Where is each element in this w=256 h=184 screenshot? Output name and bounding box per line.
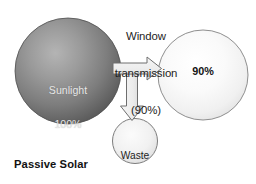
transmitted-sphere-label: 90% bbox=[168, 66, 238, 78]
figure-caption: Passive Solar bbox=[14, 158, 134, 170]
waste-label-line-2: heat bbox=[110, 183, 160, 184]
waste-heat-label: Waste heat bbox=[110, 128, 160, 184]
annotation-line-3: (90%) bbox=[96, 104, 196, 116]
sunlight-sphere-label: Sunlight 100% bbox=[28, 62, 108, 154]
sunlight-label-line-1: Sunlight bbox=[28, 85, 108, 96]
sunlight-label-line-2: 100% bbox=[28, 119, 108, 130]
passive-solar-diagram: Window transmission (90%) Sunlight 100% … bbox=[0, 0, 256, 184]
annotation-line-1: Window bbox=[96, 30, 196, 42]
